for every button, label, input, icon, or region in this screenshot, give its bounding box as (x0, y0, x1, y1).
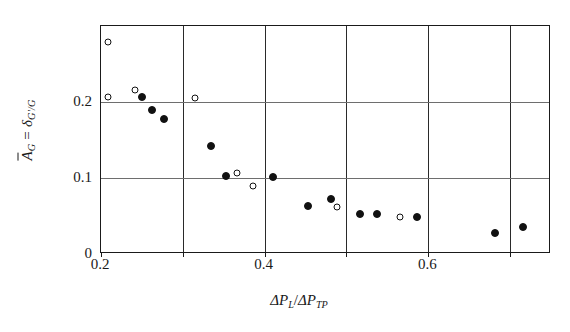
y-axis-tick-labels: 00.10.2 (46, 0, 92, 332)
data-point-filled-circles (160, 115, 168, 123)
x-axis-tick-label: 0.4 (254, 257, 273, 272)
data-point-filled-circles (519, 223, 527, 231)
y-axis-label-delta-subscript: G'/G (26, 99, 37, 120)
y-axis-label: AG = δG'/G (19, 99, 36, 160)
vertical-gridline (346, 26, 347, 252)
y-axis-label-equals: = (19, 127, 35, 144)
data-point-open-circles (192, 95, 199, 102)
x-axis-tick-label: 0.2 (91, 257, 110, 272)
x-axis-tick-labels: 0.20.40.6 (0, 257, 570, 279)
x-axis-label: ΔPL/ΔPTP (0, 292, 570, 309)
data-point-filled-circles (148, 106, 156, 114)
data-point-filled-circles (413, 213, 421, 221)
data-point-filled-circles (304, 202, 312, 210)
y-axis-label-abar-subscript: G (26, 144, 37, 152)
x-axis-tick-label: 0.6 (418, 257, 437, 272)
x-axis-label-delta-ptp: ΔP (298, 292, 316, 308)
data-point-open-circles (397, 213, 404, 220)
vertical-gridline (510, 26, 511, 252)
y-axis-label-delta: δ (19, 120, 35, 127)
y-axis-tick-label: 0.1 (73, 170, 92, 185)
data-point-open-circles (132, 86, 139, 93)
y-axis-label-container: AG = δG'/G (10, 50, 44, 210)
data-point-open-circles (233, 170, 240, 177)
x-axis-label-sub-tp: TP (316, 299, 328, 310)
vertical-gridline (265, 26, 266, 252)
x-axis-label-delta-pl: ΔP (270, 292, 288, 308)
vertical-gridline (428, 26, 429, 252)
x-axis-label-sub-l: L (288, 299, 294, 310)
data-point-filled-circles (222, 172, 230, 180)
data-point-filled-circles (373, 210, 381, 218)
scatter-chart-figure: AG = δG'/G 00.10.2 0.20.40.6 ΔPL/ΔPTP (0, 0, 570, 332)
y-axis-label-abar: A (19, 151, 36, 160)
horizontal-gridline (101, 178, 549, 179)
data-point-open-circles (105, 38, 112, 45)
data-point-open-circles (334, 203, 341, 210)
plot-area (100, 25, 550, 253)
data-point-open-circles (104, 94, 111, 101)
data-point-filled-circles (491, 229, 499, 237)
data-point-open-circles (250, 182, 257, 189)
vertical-gridline (183, 26, 184, 252)
data-point-filled-circles (269, 173, 277, 181)
data-point-filled-circles (207, 142, 215, 150)
data-point-filled-circles (327, 195, 335, 203)
data-point-filled-circles (138, 93, 146, 101)
y-axis-tick-label: 0.2 (73, 94, 92, 109)
data-point-filled-circles (356, 210, 364, 218)
horizontal-gridline (101, 102, 549, 103)
